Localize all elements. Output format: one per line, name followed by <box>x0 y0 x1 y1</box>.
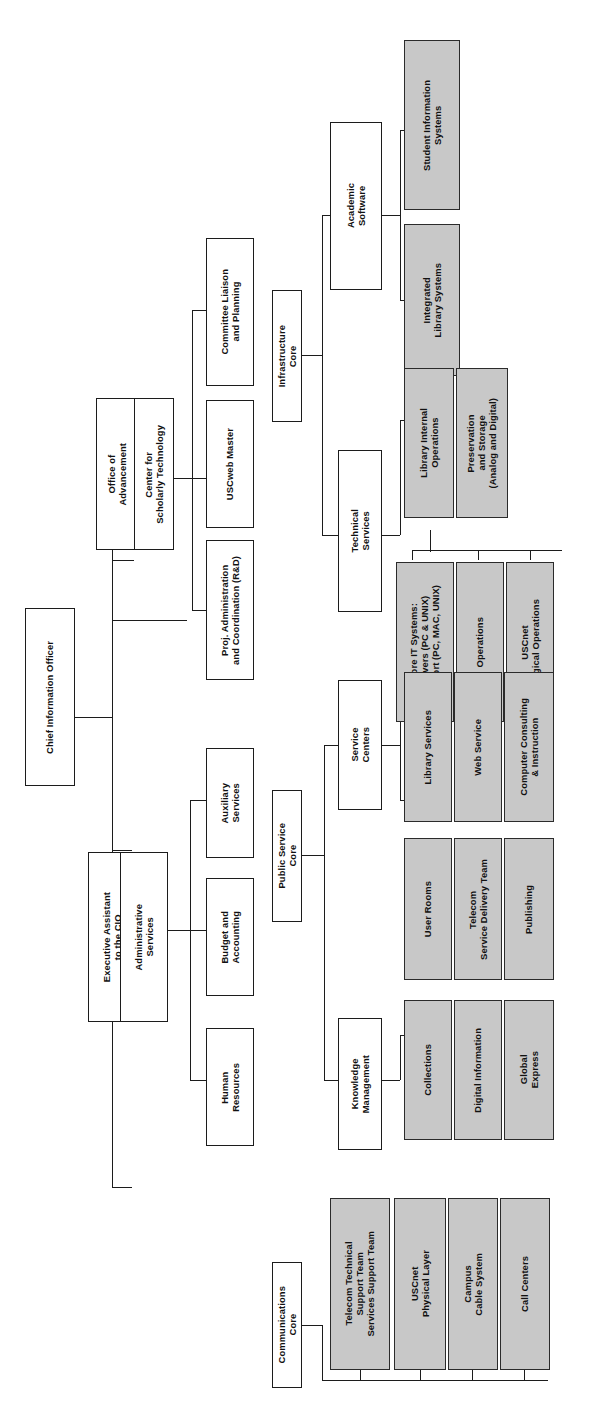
node-digital-information[interactable]: Digital Information <box>454 1000 502 1140</box>
connector <box>324 745 338 746</box>
node-label: User Rooms <box>422 881 433 937</box>
node-publishing[interactable]: Publishing <box>504 838 554 980</box>
connector <box>75 717 112 718</box>
node-label: Service Centers <box>349 727 371 763</box>
node-preservation-and-storage[interactable]: Preservation and Storage (Analog and Dig… <box>456 368 508 518</box>
node-uscnet-physical-layer[interactable]: USCnet Physical Layer <box>394 1198 446 1370</box>
node-web-service[interactable]: Web Service <box>454 672 502 822</box>
node-collections[interactable]: Collections <box>404 1000 452 1140</box>
node-infrastructure-core[interactable]: Infrastructure Core <box>272 290 302 422</box>
connector <box>112 620 187 621</box>
node-label: Infrastructure Core <box>276 325 298 387</box>
node-chief-information-officer[interactable]: Chief Information Officer <box>25 608 75 786</box>
node-label: Communications Core <box>276 1286 298 1363</box>
node-uscweb-master[interactable]: USCweb Master <box>206 400 254 528</box>
node-human-resources[interactable]: Human Resources <box>206 1028 254 1146</box>
node-label: Library Internal Operations <box>418 408 440 478</box>
node-label: Human Resources <box>219 1063 241 1112</box>
node-label: Committee Liaison and Planning <box>219 269 241 355</box>
node-computer-consulting-instruction[interactable]: Computer Consulting & Instruction <box>504 672 554 822</box>
connector <box>322 535 338 536</box>
node-committee-liaison-and-planning[interactable]: Committee Liaison and Planning <box>206 238 254 386</box>
connector <box>112 1187 132 1188</box>
node-user-rooms[interactable]: User Rooms <box>404 838 452 980</box>
connector <box>112 790 113 852</box>
connector <box>192 310 206 311</box>
connector <box>400 130 401 300</box>
node-administrative-services[interactable]: Administrative Services <box>120 852 168 1022</box>
node-auxiliary-services[interactable]: Auxiliary Services <box>206 748 254 858</box>
connector <box>430 530 431 552</box>
node-label: Integrated Library Systems <box>421 263 443 337</box>
connector <box>168 930 190 931</box>
node-proj-administration[interactable]: Proj. Administration and Coordination (R… <box>206 540 254 680</box>
connector <box>192 310 193 610</box>
node-label: Call Centers <box>519 1256 530 1312</box>
node-label: Telecom Service Delivery Team <box>467 859 489 960</box>
node-student-information-systems[interactable]: Student Information Systems <box>404 40 460 210</box>
node-office-of-advancement[interactable]: Office of Advancement <box>96 398 138 550</box>
node-label: Office of Advancement <box>106 443 128 506</box>
node-label: Campus Cable System <box>462 1253 484 1316</box>
connector <box>322 215 323 535</box>
connector <box>478 550 479 560</box>
node-telecom-technical-support-team[interactable]: Telecom Technical Support Team Services … <box>330 1198 390 1370</box>
connector <box>112 850 132 851</box>
connector <box>190 1080 206 1081</box>
connector <box>192 478 206 479</box>
node-label: Library Services <box>422 710 433 785</box>
connector <box>382 215 400 216</box>
node-knowledge-management[interactable]: Knowledge Management <box>338 1018 382 1150</box>
node-label: Publishing <box>523 885 534 934</box>
node-label: Computer Consulting & Instruction <box>518 698 540 796</box>
node-label: Student Information Systems <box>421 80 443 171</box>
connector <box>190 930 206 931</box>
node-label: Collections <box>422 1044 433 1096</box>
connector <box>360 1370 361 1380</box>
node-global-express[interactable]: Global Express <box>504 1000 554 1140</box>
connector <box>530 550 531 560</box>
connector <box>382 1080 400 1081</box>
node-communications-core[interactable]: Communications Core <box>272 1262 302 1388</box>
connector <box>412 550 562 551</box>
org-chart: Chief Information Officer Executive Assi… <box>0 0 596 1411</box>
node-label: Center for Scholarly Technology <box>143 425 165 524</box>
node-center-for-scholarly-technology[interactable]: Center for Scholarly Technology <box>134 398 174 550</box>
node-label: USCweb Master <box>224 428 235 500</box>
node-label: Global Express <box>518 1051 540 1088</box>
node-library-internal-operations[interactable]: Library Internal Operations <box>404 368 454 518</box>
connector <box>524 1370 525 1380</box>
node-telecom-service-delivery-team[interactable]: Telecom Service Delivery Team <box>454 838 502 980</box>
connector <box>412 550 413 560</box>
node-label: Academic Software <box>345 183 367 228</box>
connector <box>190 800 191 1080</box>
node-public-service-core[interactable]: Public Service Core <box>272 790 302 922</box>
node-integrated-library-systems[interactable]: Integrated Library Systems <box>404 224 460 376</box>
node-label: Auxiliary Services <box>219 783 241 824</box>
node-library-services[interactable]: Library Services <box>404 672 452 822</box>
node-label: Web Service <box>472 719 483 776</box>
node-label: Administrative Services <box>133 904 155 971</box>
connector <box>382 745 400 746</box>
node-service-centers[interactable]: Service Centers <box>338 680 382 810</box>
node-label: Operations <box>474 617 485 668</box>
node-label: Knowledge Management <box>349 1055 371 1113</box>
connector <box>400 1035 401 1080</box>
node-label: Telecom Technical Support Team Services … <box>343 1231 376 1337</box>
node-technical-services[interactable]: Technical Services <box>338 450 382 612</box>
connector <box>302 355 322 356</box>
connector <box>324 1080 338 1081</box>
node-call-centers[interactable]: Call Centers <box>500 1198 550 1370</box>
node-academic-software[interactable]: Academic Software <box>330 122 382 290</box>
connector <box>302 855 324 856</box>
node-label: Technical Services <box>349 509 371 552</box>
connector <box>420 1370 421 1380</box>
node-label: Proj. Administration and Coordination (R… <box>219 556 241 665</box>
node-label: Preservation and Storage (Analog and Dig… <box>465 398 498 489</box>
connector <box>382 535 400 536</box>
node-label: Digital Information <box>472 1028 483 1113</box>
connector <box>302 1325 322 1326</box>
connector <box>400 420 401 535</box>
node-campus-cable-system[interactable]: Campus Cable System <box>448 1198 498 1370</box>
node-budget-and-accounting[interactable]: Budget and Accounting <box>206 878 254 996</box>
